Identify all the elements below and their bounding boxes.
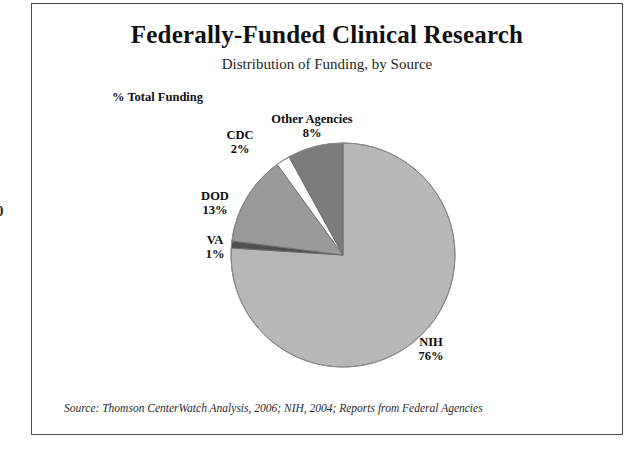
clipped-page-number: 0 — [0, 203, 4, 220]
slice-label-value: 2% — [207, 142, 273, 156]
slice-label-value: 1% — [182, 247, 248, 261]
slice-label-name: VA — [182, 233, 248, 247]
slice-label-cdc: CDC 2% — [207, 128, 273, 156]
slide-frame: Federally-Funded Clinical Research Distr… — [31, 3, 623, 435]
slice-label-value: 76% — [398, 349, 464, 363]
slice-label-dod: DOD 13% — [182, 189, 248, 217]
slice-label-nih: NIH 76% — [398, 335, 464, 363]
slice-label-name: Other Agencies — [250, 112, 374, 126]
source-note: Source: Thomson CenterWatch Analysis, 20… — [64, 402, 483, 414]
slice-label-name: NIH — [398, 335, 464, 349]
pie-slices — [231, 143, 455, 367]
slice-label-name: DOD — [182, 189, 248, 203]
slice-label-value: 13% — [182, 203, 248, 217]
slice-label-va: VA 1% — [182, 233, 248, 261]
slice-label-name: CDC — [207, 128, 273, 142]
pie-chart: Other Agencies 8% CDC 2% DOD 13% VA 1% N… — [32, 4, 624, 436]
pie-chart-svg — [32, 4, 624, 436]
